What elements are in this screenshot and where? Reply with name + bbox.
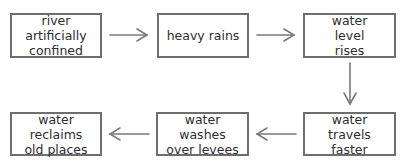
arrow-left-icon [110, 128, 149, 140]
node-heavy-rains: heavy rains [157, 13, 249, 58]
node-label: heavy rains [167, 28, 240, 43]
arrow-down-icon [344, 63, 356, 104]
node-label: water travels faster [309, 112, 390, 157]
node-river-artificially-confined: river artificially confined [10, 13, 102, 58]
node-label: water washes over levees [162, 112, 243, 157]
arrow-right-icon [257, 29, 294, 41]
arrow-right-icon [110, 29, 147, 41]
node-label: river artificially confined [16, 13, 96, 58]
node-label: water reclaims old places [16, 112, 96, 157]
node-water-level-rises: water level rises [303, 13, 396, 58]
arrow-left-icon [257, 128, 296, 140]
node-water-travels-faster: water travels faster [303, 112, 396, 156]
node-water-reclaims-old-places: water reclaims old places [10, 112, 102, 156]
node-label: water level rises [309, 13, 390, 58]
node-water-washes-over-levees: water washes over levees [156, 112, 249, 156]
